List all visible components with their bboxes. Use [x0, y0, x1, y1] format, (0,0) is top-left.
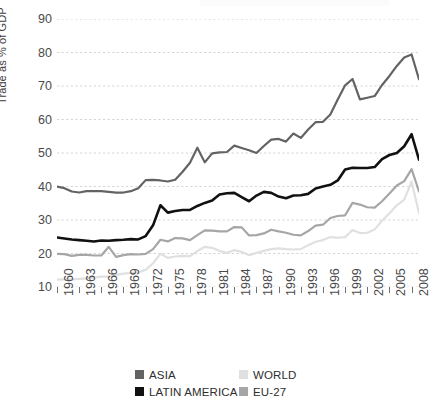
x-tick-mark: [389, 287, 390, 293]
legend-label: LATIN AMERICA: [149, 386, 238, 398]
legend-label: WORLD: [253, 369, 297, 381]
y-tick-label: 70: [6, 81, 52, 91]
y-tick-label: 10: [6, 282, 52, 292]
x-tick-label: 1966: [106, 238, 120, 296]
y-tick-label: 60: [6, 115, 52, 125]
x-tick-mark: [256, 287, 257, 293]
x-tick-mark: [279, 287, 280, 293]
x-tick-mark: [168, 287, 169, 293]
y-tick-label: 80: [6, 48, 52, 58]
x-tick-label: 1975: [173, 238, 187, 296]
series-line-latin-america: [57, 134, 419, 241]
y-tick-label: 40: [6, 182, 52, 192]
x-tick-label: 2005: [394, 238, 408, 296]
y-tick-label: 30: [6, 215, 52, 225]
figure-container: Trade as % of GDP 102030405060708090 196…: [0, 0, 429, 413]
x-tick-mark: [123, 287, 124, 293]
x-tick-label: 1960: [62, 238, 76, 296]
series-line-asia: [57, 55, 419, 193]
x-axis: 1960196319661969197219751978198119841987…: [57, 287, 419, 367]
legend-entry-world[interactable]: WORLD: [239, 369, 359, 381]
x-tick-label: 2008: [417, 238, 429, 296]
x-tick-mark: [146, 287, 147, 293]
x-tick-mark: [234, 287, 235, 293]
x-tick-mark: [190, 287, 191, 293]
chart-legend: ASIAWORLDLATIN AMERICAEU-27: [135, 366, 365, 400]
x-axis-tick-marks: 1960196319661969197219751978198119841987…: [57, 287, 419, 294]
y-tick-label: 50: [6, 148, 52, 158]
legend-swatch-icon: [135, 370, 144, 379]
x-tick-label: 1969: [128, 238, 142, 296]
y-axis-tick-labels: 102030405060708090: [0, 0, 52, 300]
legend-label: EU-27: [253, 386, 286, 398]
y-tick-label: 20: [6, 249, 52, 259]
legend-entry-eu-27[interactable]: EU-27: [239, 386, 359, 398]
legend-swatch-icon: [135, 387, 144, 396]
x-tick-mark: [101, 287, 102, 293]
x-tick-label: 1972: [151, 238, 165, 296]
figure-caption-cutoff: [4, 404, 254, 413]
legend-label: ASIA: [149, 369, 176, 381]
x-tick-label: 2002: [372, 238, 386, 296]
x-tick-mark: [57, 287, 58, 293]
x-tick-mark: [345, 287, 346, 293]
x-tick-mark: [212, 287, 213, 293]
x-tick-label: 1987: [261, 238, 275, 296]
legend-swatch-icon: [239, 387, 248, 396]
x-tick-mark: [367, 287, 368, 293]
x-tick-label: 1981: [217, 238, 231, 296]
x-tick-label: 1993: [306, 238, 320, 296]
x-tick-label: 1999: [350, 238, 364, 296]
x-tick-mark: [412, 287, 413, 293]
legend-entry-latin-america[interactable]: LATIN AMERICA: [135, 386, 239, 398]
x-tick-mark: [323, 287, 324, 293]
x-tick-label: 1978: [195, 238, 209, 296]
y-tick-label: 90: [6, 14, 52, 24]
x-tick-label: 1963: [84, 238, 98, 296]
top-cut-artifact: [200, 0, 390, 6]
legend-swatch-icon: [239, 370, 248, 379]
x-tick-label: 1990: [284, 238, 298, 296]
x-tick-mark: [301, 287, 302, 293]
x-tick-label: 1996: [328, 238, 342, 296]
x-tick-label: 1984: [239, 238, 253, 296]
x-tick-mark: [79, 287, 80, 293]
legend-entry-asia[interactable]: ASIA: [135, 369, 239, 381]
